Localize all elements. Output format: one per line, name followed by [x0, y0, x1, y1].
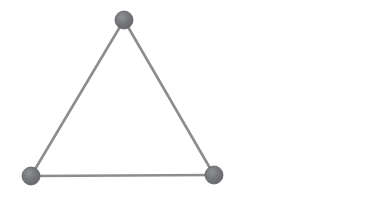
node-circle-icon	[205, 166, 223, 184]
diagram-canvas	[0, 0, 371, 208]
graph-node-bottom-left[interactable]	[22, 167, 40, 185]
triangle-graph	[0, 0, 371, 208]
graph-edge-edge-top-right[interactable]	[124, 20, 214, 175]
graph-node-bottom-right[interactable]	[205, 166, 223, 184]
edges-layer	[31, 20, 214, 176]
node-circle-icon	[115, 11, 133, 29]
graph-edge-edge-top-left[interactable]	[31, 20, 124, 176]
node-circle-icon	[22, 167, 40, 185]
nodes-layer	[22, 11, 223, 185]
graph-edge-edge-bottom-base[interactable]	[31, 175, 214, 176]
graph-node-top[interactable]	[115, 11, 133, 29]
